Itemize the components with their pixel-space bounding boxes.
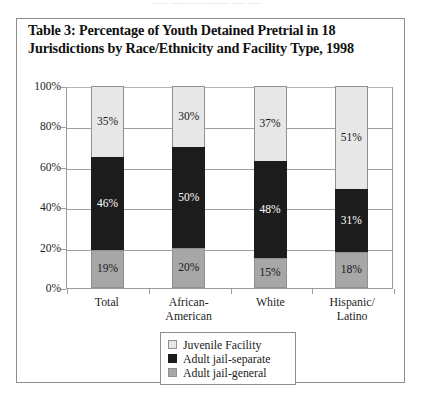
bar-segment-value-label: 50% bbox=[178, 192, 199, 204]
table-frame: Table 3: Percentage of Youth Detained Pr… bbox=[16, 18, 405, 383]
x-axis-tick-mark bbox=[312, 289, 313, 294]
bar-segment-value-label: 31% bbox=[341, 215, 362, 227]
bar-segment[interactable]: 18% bbox=[335, 252, 368, 288]
y-axis-tick-label: 60% bbox=[17, 162, 61, 174]
bar-segment[interactable]: 35% bbox=[91, 86, 124, 157]
page-title: Table 3: Percentage of Youth Detained Pr… bbox=[28, 22, 390, 57]
plot-area: 35%46%19%30%50%20%37%48%15%51%31%18% bbox=[66, 87, 393, 289]
x-axis-category-label: African-American bbox=[148, 295, 230, 323]
bar-segment-value-label: 48% bbox=[260, 204, 281, 216]
bar-segment-value-label: 19% bbox=[97, 263, 118, 275]
bar-segment[interactable]: 50% bbox=[172, 147, 205, 248]
bar-slot: 51%31%18% bbox=[311, 88, 392, 288]
y-axis-tick-label: 80% bbox=[17, 121, 61, 133]
bar-segment-value-label: 35% bbox=[97, 116, 118, 128]
bar-group: 35%46%19%30%50%20%37%48%15%51%31%18% bbox=[67, 88, 392, 288]
stacked-bar[interactable]: 51%31%18% bbox=[335, 86, 368, 288]
clipped-text-remnant: — — ———————— —— —— bbox=[152, 0, 308, 7]
bar-segment-value-label: 15% bbox=[260, 267, 281, 279]
legend-item[interactable]: Juvenile Facility bbox=[168, 338, 289, 351]
x-axis-tick-mark bbox=[231, 289, 232, 294]
bar-segment[interactable]: 31% bbox=[335, 189, 368, 252]
x-axis-category-label-line: African- bbox=[148, 295, 230, 309]
legend-item-label: Juvenile Facility bbox=[183, 339, 261, 351]
x-axis-tick-mark bbox=[149, 289, 150, 294]
title-line-2: Jurisdictions by Race/Ethnicity and Faci… bbox=[28, 40, 390, 58]
bar-segment[interactable]: 46% bbox=[91, 157, 124, 250]
bar-segment[interactable]: 30% bbox=[172, 86, 205, 147]
x-axis-category-label-line: Latino bbox=[311, 309, 393, 323]
x-axis-category-label: White bbox=[230, 295, 312, 309]
x-axis-category-label: Total bbox=[66, 295, 148, 309]
bar-segment[interactable]: 37% bbox=[254, 86, 287, 161]
legend-item[interactable]: Adult jail-separate bbox=[168, 352, 289, 365]
bar-slot: 37%48%15% bbox=[230, 88, 311, 288]
legend-item[interactable]: Adult jail-general bbox=[168, 366, 289, 379]
legend-swatch-separate-icon bbox=[168, 354, 177, 363]
y-axis-tick-label: 20% bbox=[17, 243, 61, 255]
bar-segment[interactable]: 48% bbox=[254, 161, 287, 258]
bar-segment[interactable]: 51% bbox=[335, 86, 368, 189]
bar-slot: 30%50%20% bbox=[148, 88, 229, 288]
legend-item-label: Adult jail-separate bbox=[183, 353, 270, 365]
stacked-bar-chart: 100%80%60%40%20%0% 35%46%19%30%50%20%37%… bbox=[17, 59, 406, 383]
x-axis-tick-mark bbox=[394, 289, 395, 294]
x-axis-category-label-line: American bbox=[148, 309, 230, 323]
bar-segment-value-label: 51% bbox=[341, 132, 362, 144]
bar-segment-value-label: 18% bbox=[341, 264, 362, 276]
bar-segment-value-label: 20% bbox=[178, 262, 199, 274]
bar-segment[interactable]: 19% bbox=[91, 250, 124, 288]
bar-slot: 35%46%19% bbox=[67, 88, 148, 288]
stacked-bar[interactable]: 30%50%20% bbox=[172, 86, 205, 288]
x-axis-category-label: Hispanic/Latino bbox=[311, 295, 393, 323]
bar-segment-value-label: 46% bbox=[97, 198, 118, 210]
bar-segment-value-label: 30% bbox=[178, 111, 199, 123]
legend-item-label: Adult jail-general bbox=[183, 367, 267, 379]
y-axis-tick-mark bbox=[61, 289, 66, 290]
legend-swatch-juvenile-icon bbox=[168, 340, 177, 349]
x-axis-tick-mark bbox=[67, 289, 68, 294]
bar-segment-value-label: 37% bbox=[260, 118, 281, 130]
y-axis-tick-label: 100% bbox=[17, 81, 61, 93]
x-axis-category-label-line: Total bbox=[66, 295, 148, 309]
bar-segment[interactable]: 20% bbox=[172, 248, 205, 288]
y-axis-tick-label: 40% bbox=[17, 202, 61, 214]
x-axis-category-label-line: White bbox=[230, 295, 312, 309]
legend-swatch-general-icon bbox=[168, 368, 177, 377]
chart-legend: Juvenile FacilityAdult jail-separateAdul… bbox=[160, 332, 296, 385]
bar-segment[interactable]: 15% bbox=[254, 258, 287, 288]
stacked-bar[interactable]: 35%46%19% bbox=[91, 86, 124, 288]
y-axis-tick-label: 0% bbox=[17, 283, 61, 295]
x-axis-category-label-line: Hispanic/ bbox=[311, 295, 393, 309]
stacked-bar[interactable]: 37%48%15% bbox=[254, 86, 287, 288]
title-line-1: Table 3: Percentage of Youth Detained Pr… bbox=[28, 22, 390, 40]
